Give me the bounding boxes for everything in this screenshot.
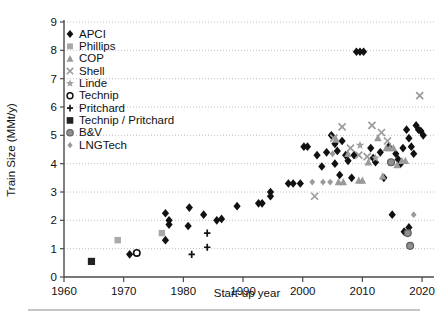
data-point [204, 244, 210, 251]
x-tick-label: 1970 [111, 285, 137, 297]
data-point [134, 250, 140, 256]
series-apci [126, 47, 427, 258]
data-point [416, 92, 423, 99]
data-point [336, 171, 343, 180]
legend-item-shell: Shell [67, 65, 105, 77]
data-point [331, 159, 338, 168]
data-point [399, 144, 406, 153]
data-point [297, 179, 304, 188]
series-linde [356, 141, 380, 162]
legend-marker-icon [67, 55, 74, 62]
data-point [411, 211, 417, 218]
series-b-v [388, 159, 414, 250]
y-tick-label: 9 [51, 16, 57, 28]
data-point [115, 237, 121, 243]
data-point [185, 222, 192, 231]
legend-marker-icon [67, 93, 73, 99]
data-point [323, 148, 330, 157]
legend-marker-icon [67, 117, 74, 124]
legend-marker-icon [67, 68, 73, 74]
y-tick-label: 3 [51, 186, 57, 198]
data-point [338, 137, 345, 146]
data-point [126, 250, 133, 259]
x-tick-label: 2000 [290, 285, 316, 297]
legend-item-lngtech: LNGTech [67, 139, 127, 151]
x-tick-label: 2010 [350, 285, 376, 297]
y-tick-label: 2 [51, 214, 57, 226]
data-point [347, 145, 354, 152]
legend-label: APCI [79, 28, 106, 40]
data-point [309, 179, 315, 186]
legend: APCIPhillipsCOPShellLindeTechnipPritchar… [66, 28, 174, 151]
data-points [88, 47, 427, 265]
legend-label: Shell [79, 65, 105, 77]
x-tick-label: 2020 [409, 285, 435, 297]
legend-label: B&V [79, 126, 102, 138]
legend-marker-icon [67, 43, 73, 49]
data-point [404, 230, 411, 237]
y-axis: 0123456789 [51, 16, 64, 283]
data-point [377, 148, 384, 157]
legend-label: LNGTech [79, 139, 127, 151]
x-tick-label: 1980 [171, 285, 197, 297]
data-point [389, 210, 396, 219]
legend-marker-icon [67, 130, 73, 136]
legend-item-b-v: B&V [67, 126, 103, 138]
data-point [364, 153, 371, 160]
data-point [339, 123, 346, 130]
y-tick-label: 6 [51, 101, 57, 113]
data-point [290, 179, 297, 188]
data-point [368, 122, 375, 129]
data-point [384, 138, 391, 145]
legend-marker-icon [67, 105, 73, 112]
data-point [348, 174, 355, 183]
data-point [186, 203, 193, 212]
data-point [189, 251, 195, 258]
data-point [88, 258, 95, 265]
legend-label: COP [79, 52, 104, 64]
series-phillips [115, 230, 166, 243]
data-point [162, 236, 169, 245]
chart-canvas: 0123456789 1960197019801990200020102020 … [0, 0, 448, 315]
legend-item-phillips: Phillips [67, 40, 116, 52]
data-point [407, 242, 414, 249]
y-tick-label: 1 [51, 243, 57, 255]
data-point [327, 179, 333, 186]
y-tick-label: 5 [51, 129, 57, 141]
legend-item-apci: APCI [67, 28, 106, 40]
x-tick-label: 1960 [51, 285, 77, 297]
series-technip [134, 250, 140, 256]
legend-label: Technip / Pritchard [79, 114, 174, 126]
legend-label: Pritchard [79, 102, 125, 114]
data-point [388, 159, 395, 166]
legend-label: Phillips [79, 40, 116, 52]
legend-item-technip-pritchard: Technip / Pritchard [67, 114, 175, 126]
legend-label: Linde [79, 77, 107, 89]
legend-item-technip: Technip [67, 89, 119, 101]
y-tick-label: 4 [51, 158, 58, 170]
legend-item-cop: COP [67, 52, 105, 64]
data-point [204, 229, 210, 236]
data-point [403, 125, 410, 134]
data-point [233, 202, 240, 211]
data-point [313, 151, 320, 160]
y-axis-title: Train Size (MMt/y) [5, 103, 17, 197]
data-point [159, 230, 165, 236]
legend-marker-icon [67, 30, 74, 38]
legend-item-pritchard: Pritchard [67, 102, 125, 114]
data-point [162, 209, 169, 218]
data-point [200, 210, 207, 219]
y-tick-label: 0 [51, 271, 57, 283]
data-point [356, 141, 365, 149]
legend-marker-icon [66, 79, 74, 87]
y-tick-label: 7 [51, 73, 57, 85]
data-point [311, 193, 318, 200]
data-point [378, 129, 385, 136]
scatter-chart: 0123456789 1960197019801990200020102020 … [0, 0, 448, 315]
series-pritchard [189, 229, 211, 257]
data-point [320, 179, 326, 186]
x-axis-title: Start-up year [214, 287, 281, 299]
legend-label: Technip [79, 89, 119, 101]
data-point [367, 144, 374, 153]
legend-marker-icon [67, 142, 72, 148]
